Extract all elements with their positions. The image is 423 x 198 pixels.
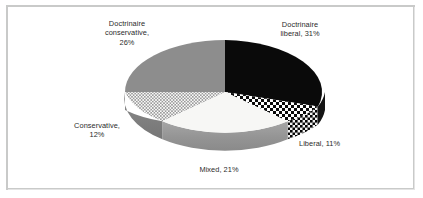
- slice-label-liberal: Liberal, 11%: [299, 139, 385, 148]
- slice-label-mixed: Mixed, 21%: [174, 165, 264, 174]
- pie-chart: Doctrinaire conservative, 26% Doctrinair…: [0, 0, 423, 198]
- slice-label-doctrinaire-liberal: Doctrinaire liberal, 31%: [252, 20, 348, 39]
- pie-top-face: [125, 40, 322, 133]
- slice-doctrinaire-conservative: [125, 40, 225, 92]
- chart-figure: Doctrinaire conservative, 26% Doctrinair…: [0, 0, 423, 198]
- slice-label-conservative: Conservative, 12%: [54, 121, 140, 140]
- slice-label-doctrinaire-conservative: Doctrinaire conservative, 26%: [75, 19, 179, 47]
